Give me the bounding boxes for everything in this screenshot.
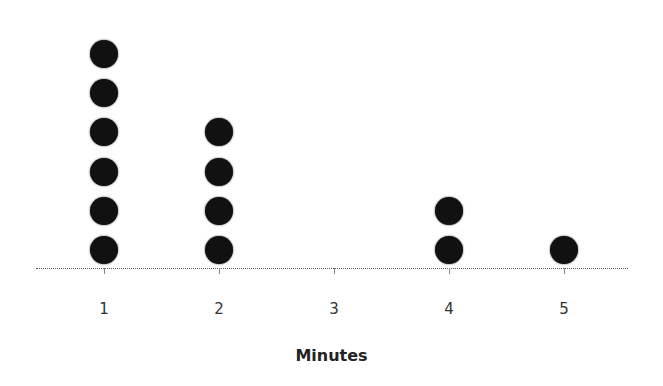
data-dot [90,118,118,146]
x-tick-label: 4 [434,300,464,318]
data-dot [205,236,233,264]
data-dot [90,158,118,186]
data-dot [90,79,118,107]
data-dot [205,158,233,186]
data-dot [435,236,463,264]
x-tick [449,268,450,274]
x-tick [334,268,335,274]
data-dot [435,197,463,225]
data-dot [90,236,118,264]
x-tick-label: 2 [204,300,234,318]
dot-plot: 12345 Minutes [0,0,663,386]
data-dot [205,118,233,146]
x-tick [564,268,565,274]
data-dot [90,40,118,68]
x-tick-label: 5 [549,300,579,318]
x-tick [219,268,220,274]
x-axis-line [36,268,628,269]
x-tick-label: 1 [89,300,119,318]
x-tick-label: 3 [319,300,349,318]
x-tick [104,268,105,274]
x-axis-title: Minutes [0,346,663,365]
data-dot [90,197,118,225]
data-dot [205,197,233,225]
data-dot [550,236,578,264]
